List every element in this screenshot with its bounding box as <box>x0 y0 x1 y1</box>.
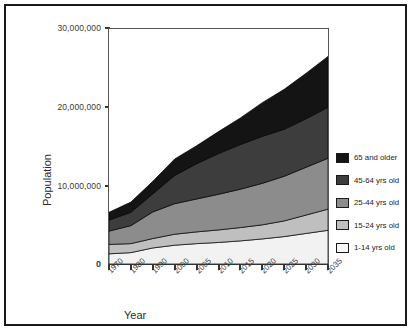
y-axis-tick-label-20m: 20,000,000 <box>39 102 101 112</box>
legend-label: 1-14 yrs old <box>354 243 395 252</box>
legend-swatch <box>336 243 349 253</box>
legend-item: 1-14 yrs old <box>336 242 413 253</box>
legend-label: 25-44 yrs old <box>354 198 399 207</box>
chart-legend: 65 and older45-64 yrs old25-44 yrs old15… <box>336 152 413 265</box>
legend-item: 65 and older <box>336 152 413 163</box>
legend-swatch <box>336 198 349 208</box>
chart-frame: 30,000,000 20,000,000 10,000,000 0 Popul… <box>4 4 407 326</box>
y-axis-tick-label-30m: 30,000,000 <box>39 23 101 33</box>
stacked-area-series-group <box>109 29 328 264</box>
plot-area <box>108 28 329 265</box>
legend-label: 65 and older <box>354 153 397 162</box>
y-axis-title: Population <box>41 125 53 235</box>
legend-item: 15-24 yrs old <box>336 220 413 231</box>
legend-item: 25-44 yrs old <box>336 197 413 208</box>
legend-swatch <box>336 175 349 185</box>
legend-swatch <box>336 153 349 163</box>
legend-item: 45-64 yrs old <box>336 175 413 186</box>
x-axis-title: Year <box>124 309 146 321</box>
legend-swatch <box>336 220 349 230</box>
y-axis-tick-label-0: 0 <box>39 259 101 269</box>
legend-label: 45-64 yrs old <box>354 176 399 185</box>
legend-label: 15-24 yrs old <box>354 221 399 230</box>
